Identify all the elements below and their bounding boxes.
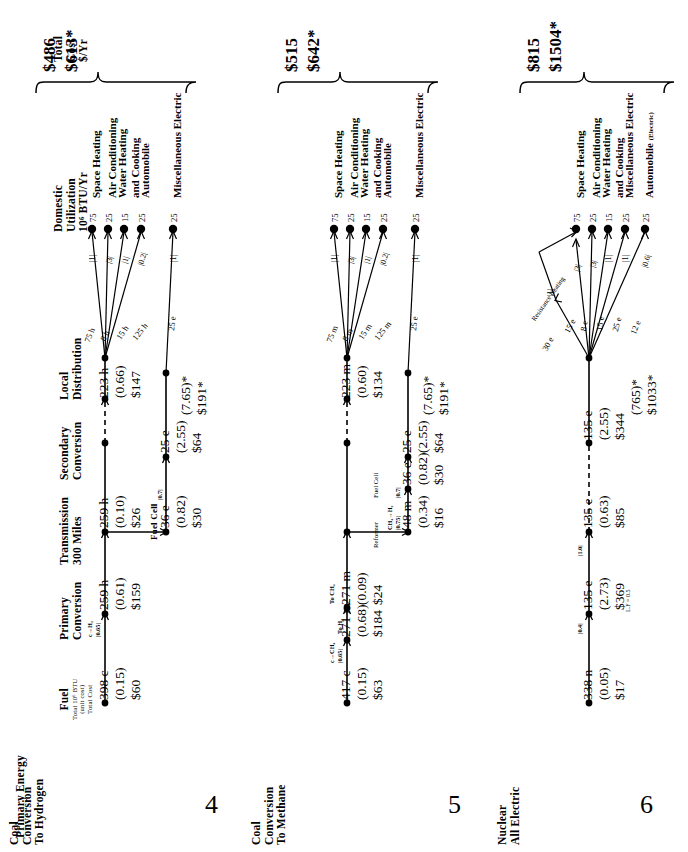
- panel-6-dist-unit-cost: (2.55): [596, 407, 611, 440]
- panel-6-dist-qty: 135 e: [580, 410, 595, 440]
- panel-4-summary-unit: (7.65)*: [178, 376, 193, 415]
- panel-5-reformer-rxn: CH₄→H₂: [386, 506, 393, 530]
- panel-5-total-cost-alt: $642*: [304, 30, 323, 73]
- panel-5-edist-unit-cost: (2.55): [415, 420, 430, 453]
- panel-4-name: Coal Conversion To Hydrogen: [8, 779, 46, 845]
- panel-4-edist-unit-cost: (2.55): [173, 420, 188, 453]
- panel-5-tag-to-ch4: To CH₄: [328, 584, 335, 604]
- panel-4-value-1: 25: [104, 214, 114, 223]
- panel-5-dist-qty: 223 m: [338, 364, 353, 398]
- panel-4-edist-qty: 25 e: [157, 430, 172, 453]
- panel-6-load-factor-note: L.F = 0.5: [625, 590, 631, 612]
- panel-6-value-4: 25: [641, 214, 651, 223]
- panel-5-reformer-total: $16: [431, 508, 446, 528]
- panel-5-summary-unit: (7.65)*: [420, 376, 435, 415]
- panel-4-total-cost-alt: $613*: [62, 30, 81, 73]
- panel-5-pconv-total: $184: [370, 610, 385, 637]
- panel-4-fuel-cell-eff: |0.7|: [156, 489, 163, 500]
- panel-5-value-0: 75: [330, 214, 340, 223]
- panel-6-value-0: 75: [572, 214, 582, 223]
- panel-4-sec-qty: 36 e: [157, 505, 172, 528]
- header-transmission: Transmission 300 Miles: [58, 497, 83, 565]
- panel-5-reformer-qty: 48 m: [399, 501, 414, 528]
- panel-5-conv-label: c→CH₄: [328, 643, 335, 663]
- panel-6-use-label-2: Water Heating and Cooking: [600, 129, 625, 198]
- panel-4-edist-total: $64: [189, 433, 204, 453]
- panel-6-total-cost-main: $815: [524, 38, 543, 72]
- panel-5-number: 5: [448, 790, 461, 820]
- panel-5-value-4: 25: [411, 214, 421, 223]
- panel-4-sec-total: $30: [189, 508, 204, 528]
- panel-4-trans-qty: 259 h: [96, 498, 111, 528]
- panel-6-value-2: 15: [604, 214, 614, 223]
- panel-5-use-label-0: Space Heating: [332, 130, 345, 198]
- panel-5-dist-unit-cost: (0.60): [354, 365, 369, 398]
- panel-5-total-cost-main: $515: [282, 38, 301, 72]
- panel-5-edist-qty: 25 e: [399, 430, 414, 453]
- panel-4-value-0: 75: [88, 214, 98, 223]
- header-fuel: Fuel Total 10⁶ BTU (unit cost) Total Cos…: [58, 679, 93, 720]
- panel-5-fuel-qty: 417 c: [338, 670, 353, 700]
- panel-6-pconv-eff: |1.0|: [576, 545, 583, 556]
- panel-5-reformer-unit-cost: (0.34): [415, 495, 430, 528]
- panel-4-summary-total: $191*: [194, 381, 209, 415]
- panel-4-eff-0: |1|: [88, 255, 97, 262]
- panel-6-eff-2: |1|: [604, 255, 613, 262]
- panel-4-dist-total: $147: [128, 371, 143, 398]
- panel-5-feed-4: 25 e: [408, 316, 420, 332]
- panel-6-use-label-3: Miscellaneous Electric: [623, 93, 636, 198]
- panel-4-use-label-0: Space Heating: [90, 130, 103, 198]
- panel-4-dist-qty: 223 h: [96, 368, 111, 398]
- panel-5-sec-qty: 36 e: [399, 462, 414, 485]
- panel-4-value-4: 25: [169, 214, 179, 223]
- panel-5-edist-total: $64: [431, 433, 446, 453]
- panel-5-value-2: 15: [362, 214, 372, 223]
- panel-5-fuelcell-label: Fuel Cell: [372, 473, 380, 498]
- panel-6-summary-total: $1033*: [644, 375, 659, 416]
- panel-6-dist-total: $344: [612, 413, 627, 440]
- panel-5-pconv-qty: 271 m: [338, 603, 353, 637]
- panel-5-trans-qty: 271 m: [338, 571, 353, 605]
- panel-5-reformer-label: Reformer: [372, 522, 380, 548]
- panel-6-fuel-total: $17: [612, 680, 627, 700]
- panel-6-feed-1: 8 e: [578, 320, 590, 332]
- panel-4-feed-4: 25 e: [166, 316, 178, 332]
- header-local-distribution: Local Distribution: [58, 338, 83, 400]
- panel-5-dist-total: $134: [370, 371, 385, 398]
- panel-6-use-label-4: Automobile (Electric): [643, 112, 658, 198]
- header-secondary-conversion: Secondary Conversion: [58, 422, 83, 480]
- panel-5-trans-unit-cost: (0.09): [354, 572, 369, 605]
- panel-6-total-cost-alt: $1504*: [546, 21, 565, 72]
- panel-4-pconv-qty: 259 h: [96, 580, 111, 610]
- panel-6-use-label-0: Space Heating: [574, 130, 587, 198]
- panel-4-fuel-unit-cost: (0.15): [112, 667, 127, 700]
- panel-6-feed-2: 15 e: [594, 316, 606, 332]
- panel-6-trans-unit-cost: (0.63): [596, 495, 611, 528]
- panel-6-fuel-unit-cost: (0.05): [596, 667, 611, 700]
- panel-4-trans-total: $26: [128, 508, 143, 528]
- panel-5-pconv-unit-cost: (0.68): [354, 604, 369, 637]
- panel-6-name: Nuclear All Electric: [496, 787, 521, 845]
- panel-4-conv-label: c→H₂: [86, 621, 93, 637]
- panel-4-eff-4: |1|: [169, 255, 178, 262]
- panel-4-pconv-total: $159: [128, 583, 143, 610]
- panel-4-use-label-3: Automobile: [139, 143, 152, 198]
- panel-6-resistance-eff: |1|: [546, 289, 555, 296]
- panel-4-use-label-4: Miscellaneous Electric: [171, 93, 184, 198]
- panel-5-fuelcell-eff: |0.7|: [394, 487, 401, 498]
- panel-5-use-label-3: Automobile: [381, 143, 394, 198]
- header-primary-conversion: Primary Conversion: [58, 582, 83, 640]
- panel-4-dist-unit-cost: (0.66): [112, 365, 127, 398]
- panel-6-summary-unit: (765)*: [628, 379, 643, 415]
- panel-4-value-3: 25: [137, 214, 147, 223]
- panel-5-conv-eff: |0.65|: [336, 649, 343, 663]
- panel-6-fuel-eff: |0.4|: [576, 623, 583, 634]
- panel-5-eff-0: |1|: [330, 255, 339, 262]
- header-domestic-utilization: Domestic Utilization 10⁶ BTU/Yr: [52, 172, 90, 232]
- panel-5-use-label-2: Water Heating and Cooking: [358, 129, 383, 198]
- panel-4-fuel-total: $60: [128, 680, 143, 700]
- panel-5-summary-total: $191*: [436, 381, 451, 415]
- panel-5-trans-total: $24: [370, 585, 385, 605]
- panel-5-name: Coal Conversion To Methane: [250, 784, 288, 845]
- panel-6-pconv-unit-cost: (2.73): [596, 577, 611, 610]
